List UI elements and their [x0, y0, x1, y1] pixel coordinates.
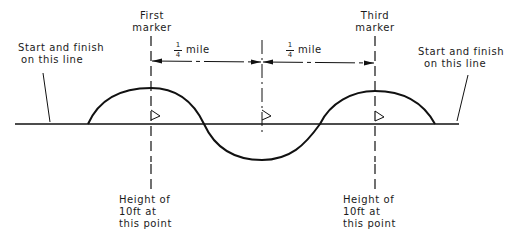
denominator: 4 — [288, 51, 292, 59]
label-line: Start and finish — [418, 46, 504, 58]
fraction: 1 4 — [174, 42, 182, 59]
label-line: marker — [130, 22, 174, 34]
arrowhead-left-1 — [152, 59, 162, 64]
label-line: on this line — [18, 54, 104, 66]
label-line: First — [130, 10, 174, 22]
label-line: Height of — [119, 194, 172, 206]
label-third-marker: Third marker — [352, 10, 398, 34]
denominator: 4 — [176, 51, 180, 59]
label-height-left: Height of 10ft at this point — [119, 194, 172, 230]
label-first-marker: First marker — [130, 10, 174, 34]
flag-icon-first — [151, 110, 160, 120]
label-line: this point — [343, 218, 396, 230]
label-line: Third — [352, 10, 398, 22]
label-line: this point — [119, 218, 172, 230]
label-height-right: Height of 10ft at this point — [343, 194, 396, 230]
label-line: 10ft at — [119, 206, 172, 218]
unit: mile — [298, 44, 322, 56]
leader-line-left — [43, 73, 50, 122]
numerator: 1 — [176, 41, 180, 49]
flag-icon-second — [262, 110, 271, 120]
label-start-right: Start and finish on this line — [418, 46, 504, 70]
fraction: 1 4 — [286, 42, 294, 59]
dimension-line-2 — [263, 62, 374, 63]
arrowhead-left-2 — [263, 60, 273, 65]
arrowhead-right-2 — [364, 61, 374, 66]
label-line: 10ft at — [343, 206, 396, 218]
unit: mile — [186, 44, 210, 56]
course-diagram — [0, 0, 525, 242]
dimension-line-1 — [152, 61, 261, 62]
label-line: Height of — [343, 194, 396, 206]
flag-icon-third — [375, 111, 384, 121]
leader-line-right — [457, 75, 468, 121]
label-line: on this line — [418, 58, 504, 70]
numerator: 1 — [288, 41, 292, 49]
label-line: marker — [352, 22, 398, 34]
arrowhead-right-1 — [251, 60, 261, 65]
label-start-left: Start and finish on this line — [18, 42, 104, 66]
label-line: Start and finish — [18, 42, 104, 54]
